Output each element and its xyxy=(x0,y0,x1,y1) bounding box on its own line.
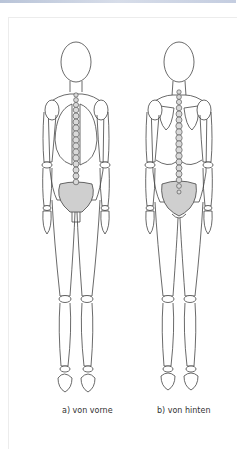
caption-front: a) von vorne xyxy=(62,406,113,415)
figure-front xyxy=(42,42,110,392)
caption-back: b) von hinten xyxy=(157,406,210,415)
figure-back xyxy=(145,42,213,390)
